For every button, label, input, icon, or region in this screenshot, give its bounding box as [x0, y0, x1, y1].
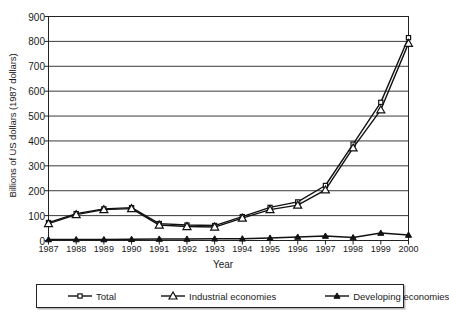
x-axis-tick-label: 1991: [149, 244, 169, 254]
x-axis-tick-label: 1988: [66, 244, 86, 254]
x-axis-tick-label: 2000: [398, 244, 418, 254]
series-line: [49, 43, 409, 227]
x-axis-tick-label: 1989: [94, 244, 114, 254]
chart-legend: TotalIndustrial economiesDeveloping econ…: [36, 284, 404, 308]
legend-item-label: Developing economies: [353, 291, 449, 302]
legend-item-label: Industrial economies: [189, 291, 276, 302]
x-axis-title-text: Year: [213, 259, 233, 270]
legend-marker-open-triangle-icon: [160, 290, 186, 302]
legend-marker-filled-triangle-icon: [324, 290, 350, 302]
x-axis-tick-label: 1993: [205, 244, 225, 254]
data-marker-square: [379, 100, 383, 104]
x-axis-tick-label: 1987: [38, 244, 58, 254]
gridlines: [45, 17, 409, 241]
x-axis-tick-label: 1990: [122, 244, 142, 254]
x-axis-tick-label: 1994: [232, 244, 252, 254]
x-axis-title: Year: [0, 259, 438, 270]
x-axis-tick-label: 1997: [315, 244, 335, 254]
data-marker-square: [78, 294, 82, 298]
series-industrial-economies: [45, 39, 413, 230]
legend-item-developing-economies[interactable]: Developing economies: [324, 290, 449, 302]
x-axis-tick-label: 1999: [371, 244, 391, 254]
series-total: [46, 36, 410, 228]
legend-item-label: Total: [96, 291, 116, 302]
legend-item-total[interactable]: Total: [67, 290, 116, 302]
x-axis-tick-label: 1996: [288, 244, 308, 254]
legend-item-industrial-economies[interactable]: Industrial economies: [160, 290, 276, 302]
x-axis-tick-label: 1992: [177, 244, 197, 254]
legend-marker-open-square-icon: [67, 290, 93, 302]
x-axis-tick-label: 1995: [260, 244, 280, 254]
x-axis-tick-label: 1998: [343, 244, 363, 254]
